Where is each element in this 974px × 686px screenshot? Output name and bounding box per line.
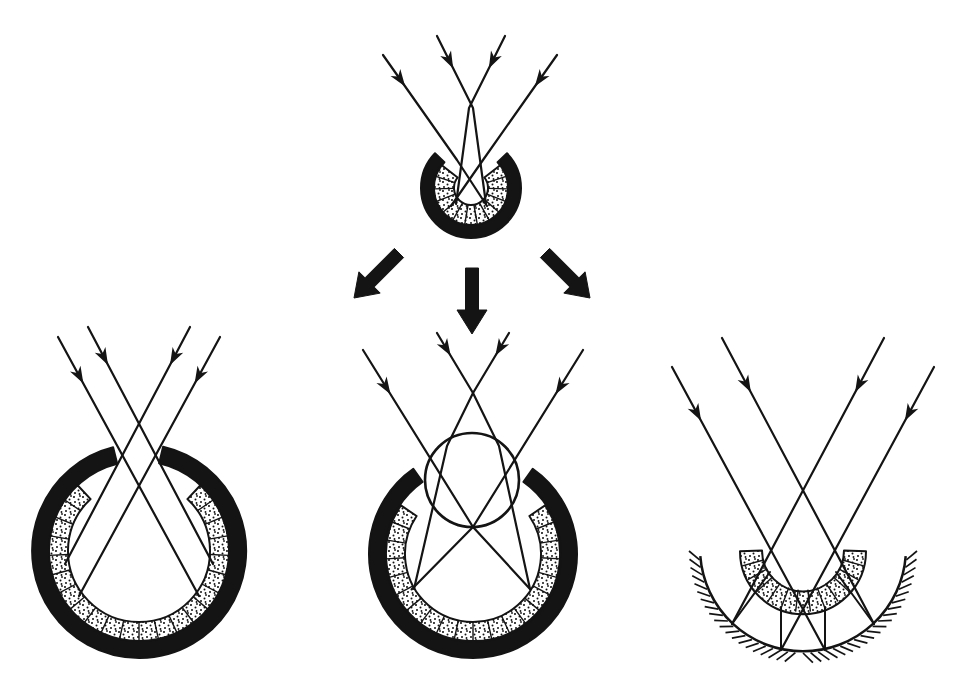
ray-arrowhead <box>376 377 390 395</box>
ray-arrowhead <box>391 69 406 86</box>
mirror-hatch-tick <box>878 620 892 621</box>
light-ray <box>672 367 825 650</box>
arrow-to-pinhole-eye <box>354 248 404 298</box>
mirror-hatch-tick <box>705 607 719 610</box>
arrow-to-lens-eye <box>457 268 487 334</box>
ray-arrowhead <box>855 375 868 393</box>
ray-arrowhead <box>556 377 570 395</box>
mirror-hatch-tick <box>709 614 723 616</box>
ray-arrowhead <box>95 347 108 365</box>
mirror-hatch-tick <box>714 620 728 621</box>
ray-arrowhead <box>688 403 701 421</box>
mirror-hatch-tick <box>847 643 860 647</box>
ray-arrowhead <box>195 366 208 384</box>
mirror-hatch-tick <box>905 559 916 567</box>
mirror-hatch-tick <box>840 646 853 651</box>
mirror-hatch-tick <box>867 631 881 632</box>
eye-evolution-diagram <box>32 36 934 663</box>
mirror-eye <box>672 338 934 663</box>
mirror-hatch-tick <box>883 614 897 616</box>
mirror-hatch-tick <box>892 599 905 603</box>
mirror-hatch-tick <box>861 636 875 639</box>
ray-arrowhead <box>70 366 83 384</box>
mirror-hatch-tick <box>691 568 703 575</box>
mirror-hatch-tick <box>753 646 766 651</box>
lens-eye <box>363 333 583 658</box>
mirror-hatch-tick <box>732 636 746 639</box>
mirror-hatch-tick <box>811 653 822 662</box>
mirror-hatch-tick <box>701 599 714 603</box>
ray-arrowhead <box>738 375 751 393</box>
mirror-hatch-tick <box>690 559 701 567</box>
mirror-hatch-tick <box>888 607 902 610</box>
mirror-eye-retina-band <box>740 550 866 614</box>
mirror-hatch-tick <box>902 576 914 582</box>
mirror-hatch-tick <box>906 551 917 560</box>
mirror-hatch-tick <box>826 651 838 658</box>
pinhole-eye-retina-band-cell-wall <box>49 555 68 556</box>
mirror-hatch-tick <box>695 584 708 590</box>
mirror-hatch-tick <box>899 584 912 590</box>
mirror-hatch-tick <box>854 640 867 644</box>
mirror-hatch-tick <box>697 592 710 597</box>
ray-arrowhead <box>535 69 550 86</box>
mirror-hatch-tick <box>904 568 916 575</box>
mirror-hatch-tick <box>739 640 752 644</box>
mirror-hatch-tick <box>785 653 796 662</box>
cup-eye <box>383 36 557 238</box>
figure-svg <box>0 0 974 686</box>
ray-arrowhead <box>170 347 183 365</box>
ray-arrowhead <box>437 338 451 356</box>
light-ray <box>722 338 874 624</box>
light-ray <box>732 338 884 624</box>
mirror-hatch-tick <box>761 649 773 655</box>
pinhole-eye-retina-band-cell-wall <box>210 555 229 556</box>
mirror-hatch-tick <box>746 643 759 647</box>
light-ray <box>781 367 934 650</box>
mirror-hatch-tick <box>769 651 781 658</box>
cup-eye-retina-band-cell-wall <box>434 188 454 189</box>
ray-arrowhead <box>905 403 918 421</box>
mirror-hatch-tick <box>833 649 845 655</box>
mirror-hatch-tick <box>692 576 704 582</box>
mirror-hatch-tick <box>777 652 788 660</box>
mirror-hatch-tick <box>896 592 909 597</box>
figure-page <box>0 0 974 686</box>
arrow-to-mirror-eye <box>540 248 590 298</box>
mirror-hatch-tick <box>689 551 700 560</box>
mirror-hatch-tick <box>726 631 740 632</box>
mirror-hatch-tick <box>818 652 829 660</box>
pinhole-eye <box>32 327 246 658</box>
ray-arrowhead <box>495 338 509 356</box>
cup-eye-retina-band-cell-wall <box>488 188 508 189</box>
